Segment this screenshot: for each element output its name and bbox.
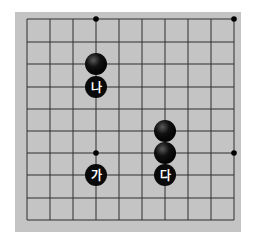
black-stone[interactable] [85,53,107,75]
star-point [93,150,99,156]
go-board: 나다가 [0,0,256,242]
stone-label: 나 [91,80,102,95]
star-point [93,16,99,22]
stone-disc [85,53,107,75]
board-background [15,12,241,232]
stone-disc [154,142,176,164]
go-diagram: 나다가 [0,0,256,242]
star-point [231,150,237,156]
stone-label: 다 [160,168,171,183]
black-stone[interactable] [154,142,176,164]
star-point [231,16,237,22]
black-stone[interactable] [154,120,176,142]
labeled-black-stone[interactable]: 가 [85,164,107,186]
labeled-black-stone[interactable]: 다 [154,164,176,186]
labeled-black-stone[interactable]: 나 [85,76,107,98]
stone-label: 가 [91,168,102,183]
stone-disc [154,120,176,142]
